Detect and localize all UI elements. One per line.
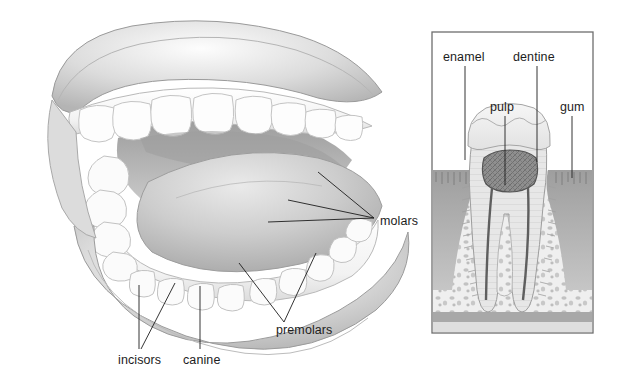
label-molars: molars bbox=[380, 214, 418, 228]
label-dentine: dentine bbox=[513, 50, 555, 64]
label-premolars: premolars bbox=[276, 323, 332, 337]
label-enamel: enamel bbox=[443, 50, 485, 64]
label-canine: canine bbox=[183, 353, 220, 367]
jawbone-base-lower bbox=[433, 322, 592, 332]
label-pulp: pulp bbox=[490, 100, 514, 114]
anatomy-figure: molars premolars incisors canine enamel … bbox=[0, 0, 622, 383]
open-mouth-illustration bbox=[48, 21, 409, 355]
tooth-cross-section-panel bbox=[432, 32, 593, 333]
label-incisors: incisors bbox=[118, 353, 161, 367]
pulp-chamber bbox=[482, 150, 537, 192]
jawbone-base bbox=[433, 312, 592, 322]
label-gum: gum bbox=[560, 100, 585, 114]
